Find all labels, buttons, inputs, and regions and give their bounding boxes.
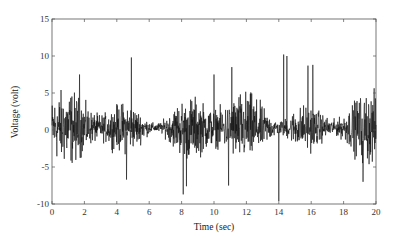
y-tick-label: 10 bbox=[40, 51, 50, 61]
x-tick-label: 4 bbox=[115, 207, 120, 217]
voltage-signal-line bbox=[52, 55, 376, 202]
x-tick-label: 16 bbox=[307, 207, 317, 217]
x-tick-label: 14 bbox=[274, 207, 284, 217]
x-tick-label: 6 bbox=[147, 207, 152, 217]
x-tick-label: 20 bbox=[372, 207, 382, 217]
x-tick-label: 12 bbox=[242, 207, 251, 217]
x-tick-label: 0 bbox=[50, 207, 55, 217]
y-tick-label: -10 bbox=[37, 199, 49, 209]
y-tick-label: -5 bbox=[42, 162, 50, 172]
y-tick-label: 15 bbox=[40, 14, 50, 24]
y-axis-title: Voltage (volt) bbox=[10, 86, 21, 138]
x-axis-title: Time (sec) bbox=[194, 222, 235, 233]
x-tick-label: 2 bbox=[82, 207, 87, 217]
y-tick-label: 5 bbox=[45, 88, 50, 98]
x-tick-label: 18 bbox=[339, 207, 349, 217]
y-tick-label: 0 bbox=[45, 125, 50, 135]
x-tick-label: 10 bbox=[210, 207, 220, 217]
x-tick-label: 8 bbox=[179, 207, 184, 217]
voltage-time-chart: 02468101214161820 -10-5051015 Time (sec)… bbox=[0, 0, 397, 241]
